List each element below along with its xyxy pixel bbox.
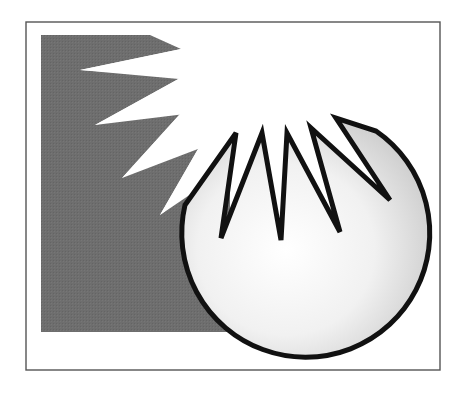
sphere [182,118,430,357]
illustration-canvas [0,0,465,395]
